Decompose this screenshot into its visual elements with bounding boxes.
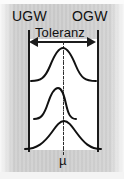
upper-limit-line xyxy=(97,30,99,152)
tolerance-label: Toleranz xyxy=(35,26,85,39)
lower-limit-label: UGW xyxy=(12,9,47,23)
mean-center-line-dots xyxy=(63,41,64,155)
mean-label: µ xyxy=(59,154,67,167)
tolerance-arrow-right-head xyxy=(87,37,96,47)
scan-bottom-margin xyxy=(0,172,124,179)
lower-limit-line xyxy=(28,30,30,152)
plot-panel xyxy=(29,39,99,150)
tolerance-distribution-figure: UGW OGW Toleranz µ xyxy=(0,0,124,179)
upper-limit-label: OGW xyxy=(72,9,108,23)
